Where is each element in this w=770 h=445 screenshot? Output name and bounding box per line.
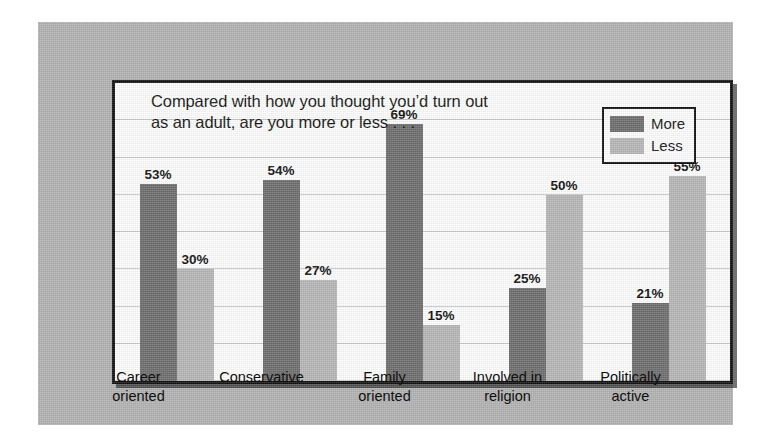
legend-label-more: More <box>651 116 685 132</box>
category-label: Involved in religion <box>446 368 569 406</box>
bar-value-label: 21% <box>636 286 663 301</box>
bar-value-label: 25% <box>513 271 540 286</box>
bar-more: 53% <box>140 184 177 381</box>
bar-value-label: 54% <box>267 163 294 178</box>
x-axis-category-labels: Career orientedConservativeFamily orient… <box>74 368 695 416</box>
bar-less: 55% <box>669 176 706 381</box>
chart-title: Compared with how you thought you’d turn… <box>151 91 488 133</box>
bar-more: 69% <box>386 124 423 381</box>
bar-value-label: 53% <box>144 167 171 182</box>
legend-item-more[interactable]: More <box>610 114 688 134</box>
category-label: Family oriented <box>323 368 446 406</box>
bar-value-label: 15% <box>427 308 454 323</box>
category-label: Conservative <box>200 368 323 387</box>
legend-swatch-less <box>610 138 644 154</box>
bar-value-label: 30% <box>181 252 208 267</box>
legend-swatch-more <box>610 116 644 132</box>
chart-legend: More Less <box>602 107 696 164</box>
bar-value-label: 27% <box>304 263 331 278</box>
legend-item-less[interactable]: Less <box>610 136 688 156</box>
bar-less: 50% <box>546 195 583 381</box>
bar-less: 30% <box>177 269 214 381</box>
chart-frame: 53%30%54%27%69%15%25%50%21%55% Compared … <box>112 80 733 384</box>
bar-value-label: 50% <box>550 178 577 193</box>
category-label: Politically active <box>569 368 692 406</box>
bar-more: 54% <box>263 180 300 381</box>
legend-label-less: Less <box>651 138 683 154</box>
category-label: Career oriented <box>77 368 200 406</box>
chart-background-panel: 53%30%54%27%69%15%25%50%21%55% Compared … <box>38 22 733 425</box>
bar-less: 27% <box>300 280 337 381</box>
